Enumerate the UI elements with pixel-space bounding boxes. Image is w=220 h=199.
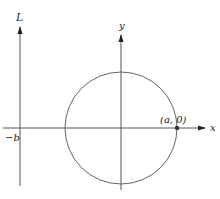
point-a-0 <box>175 126 179 130</box>
x-axis-label: x <box>210 122 216 133</box>
y-axis-label: y <box>118 20 125 31</box>
L-axis-label: L <box>15 11 23 24</box>
neg-b-label: −b <box>5 132 20 143</box>
point-label: (a, 0) <box>160 114 187 125</box>
circle-diagram: L x y (a, 0) −b <box>0 0 220 199</box>
